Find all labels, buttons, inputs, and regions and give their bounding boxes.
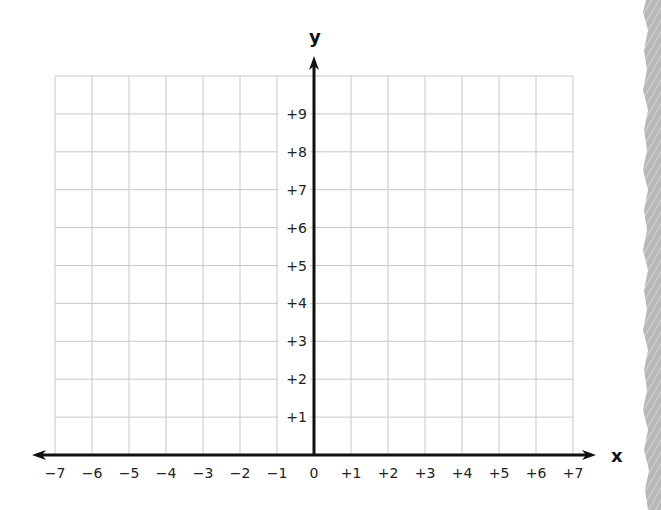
- y-tick-label: +7: [286, 182, 307, 198]
- axes: [32, 56, 596, 460]
- x-tick-label: +5: [489, 465, 510, 481]
- x-tick-label: 0: [310, 465, 319, 481]
- y-tick-label: +1: [286, 409, 307, 425]
- x-axis-label: x: [611, 445, 623, 466]
- y-tick-label: +9: [286, 106, 307, 122]
- x-tick-label: +2: [378, 465, 399, 481]
- y-tick-label: +8: [286, 144, 307, 160]
- x-tick-label: +3: [415, 465, 436, 481]
- x-tick-label: +1: [341, 465, 362, 481]
- x-tick-label: +4: [452, 465, 473, 481]
- decorative-edge: [643, 0, 661, 510]
- x-tick-label: −5: [119, 465, 140, 481]
- x-tick-label: −4: [156, 465, 177, 481]
- y-tick-label: +4: [286, 295, 307, 311]
- y-tick-label: +2: [286, 371, 307, 387]
- x-tick-label: −3: [193, 465, 214, 481]
- y-axis-label: y: [309, 26, 321, 47]
- y-tick-label: +6: [286, 220, 307, 236]
- x-tick-label: −7: [45, 465, 66, 481]
- coordinate-grid: −7−6−5−4−3−2−10+1+2+3+4+5+6+7 +1+2+3+4+5…: [0, 0, 661, 510]
- y-tick-label: +3: [286, 333, 307, 349]
- x-tick-label: +7: [563, 465, 584, 481]
- x-tick-label: +6: [526, 465, 547, 481]
- y-tick-labels: +1+2+3+4+5+6+7+8+9: [278, 105, 310, 426]
- x-tick-label: −6: [82, 465, 103, 481]
- x-tick-labels: −7−6−5−4−3−2−10+1+2+3+4+5+6+7: [45, 465, 584, 481]
- x-tick-label: −1: [267, 465, 288, 481]
- y-tick-label: +5: [286, 258, 307, 274]
- x-tick-label: −2: [230, 465, 251, 481]
